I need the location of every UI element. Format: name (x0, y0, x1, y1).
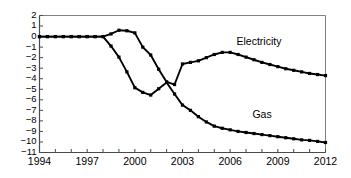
data-point-marker (38, 35, 41, 38)
data-point-marker (133, 86, 136, 89)
data-point-marker (324, 141, 327, 144)
data-point-marker (133, 31, 136, 34)
data-point-marker (157, 68, 160, 71)
y-axis-tick-label: −1 (26, 42, 37, 52)
data-point-marker (117, 56, 120, 59)
line-chart-plot (0, 0, 351, 178)
data-point-marker (229, 128, 232, 131)
data-point-marker (149, 93, 152, 96)
data-point-marker (300, 70, 303, 73)
data-point-marker (316, 140, 319, 143)
data-point-marker (221, 51, 224, 54)
data-point-marker (117, 29, 120, 32)
data-point-marker (284, 136, 287, 139)
chart-container: 210−1−2−3−4−5−6−7−8−9−10−111994199720002… (0, 0, 351, 178)
data-point-marker (141, 46, 144, 49)
data-point-marker (316, 73, 319, 76)
data-point-marker (70, 35, 73, 38)
data-point-marker (284, 67, 287, 70)
series-label-gas: Gas (252, 109, 271, 120)
data-point-marker (276, 135, 279, 138)
data-point-marker (252, 132, 255, 135)
data-point-marker (308, 139, 311, 142)
data-point-marker (268, 63, 271, 66)
data-point-marker (213, 53, 216, 56)
data-point-marker (300, 138, 303, 141)
y-axis-tick-label: −3 (26, 63, 37, 73)
data-point-marker (141, 91, 144, 94)
data-point-marker (244, 56, 247, 59)
data-point-marker (260, 133, 263, 136)
y-axis-tick-label: −10 (20, 136, 36, 146)
data-point-marker (292, 69, 295, 72)
data-point-marker (125, 70, 128, 73)
data-point-marker (109, 32, 112, 35)
series-label-electricity: Electricity (237, 36, 282, 47)
data-point-marker (173, 92, 176, 95)
y-axis-tick-label: −7 (26, 105, 37, 115)
data-point-marker (157, 87, 160, 90)
data-point-marker (54, 35, 57, 38)
data-point-marker (324, 74, 327, 77)
data-point-marker (189, 61, 192, 64)
data-point-marker (260, 61, 263, 64)
data-point-marker (268, 134, 271, 137)
data-point-marker (205, 56, 208, 59)
data-point-marker (213, 125, 216, 128)
y-axis-tick-label: 0 (31, 31, 36, 41)
data-point-marker (244, 131, 247, 134)
y-axis-tick-label: −5 (26, 84, 37, 94)
y-axis-tick-label: −2 (26, 52, 37, 62)
y-axis-tick-label: −9 (26, 126, 37, 136)
data-point-marker (46, 35, 49, 38)
data-point-marker (308, 72, 311, 75)
series-line-electricity (40, 30, 326, 84)
data-point-marker (181, 62, 184, 65)
data-point-marker (94, 35, 97, 38)
data-point-marker (125, 29, 128, 32)
data-point-marker (229, 51, 232, 54)
data-point-marker (62, 35, 65, 38)
data-point-marker (181, 103, 184, 106)
data-point-marker (173, 83, 176, 86)
data-point-marker (292, 137, 295, 140)
data-point-marker (149, 53, 152, 56)
data-point-marker (276, 65, 279, 68)
data-point-marker (197, 115, 200, 118)
y-axis-tick-label: 2 (31, 10, 36, 20)
y-axis-tick-label: 1 (31, 20, 36, 30)
data-point-marker (189, 109, 192, 112)
data-point-marker (101, 35, 104, 38)
y-axis-tick-label: −8 (26, 115, 37, 125)
x-axis-tick-label: 2012 (296, 156, 351, 167)
series-line-gas (40, 37, 326, 143)
data-point-marker (165, 81, 168, 84)
data-point-marker (237, 130, 240, 133)
y-axis-tick-label: −4 (26, 73, 37, 83)
data-point-marker (205, 120, 208, 123)
data-point-marker (78, 35, 81, 38)
data-point-marker (221, 127, 224, 130)
data-point-marker (252, 58, 255, 61)
data-point-marker (237, 53, 240, 56)
data-point-marker (109, 44, 112, 47)
data-point-marker (197, 59, 200, 62)
data-point-marker (86, 35, 89, 38)
y-axis-tick-label: −6 (26, 94, 37, 104)
